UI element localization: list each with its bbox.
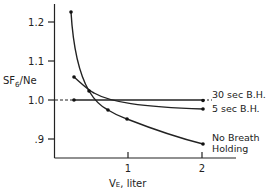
x-axis-title: VE, liter [109,178,147,189]
data-point [201,107,205,111]
y-tick-label-1.0: 1.0 [28,95,44,106]
y-tick-label-0.9: .9 [34,134,44,145]
y-tick-label-1.2: 1.2 [28,17,44,28]
series-5sec-bh [72,75,205,111]
data-point [106,108,110,112]
data-point [72,75,76,79]
series-label-nbh-line2: Holding [212,143,248,154]
data-point [125,117,129,121]
series-label-30sec: 30 sec B.H. [212,89,266,100]
data-point [87,89,91,93]
data-point [201,99,205,103]
data-point [201,142,205,146]
data-point [72,98,76,102]
x-tick-label-1: 1 [125,163,131,174]
y-axis-title: SF6/Ne [3,75,37,89]
chart: 1.2 1.1 1.0 .9 1 2 SF6/Ne VE, liter 30 s… [0,0,267,194]
series-label-nbh-line1: No Breath [212,132,260,143]
series-label-5sec: 5 sec B.H. [212,103,260,114]
x-tick-label-2: 2 [199,163,205,174]
y-tick-label-1.1: 1.1 [28,56,44,67]
data-point [69,10,73,14]
axes [48,4,236,158]
series-30sec-bh [55,98,212,102]
series-no-breath-holding [69,10,205,146]
